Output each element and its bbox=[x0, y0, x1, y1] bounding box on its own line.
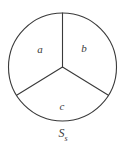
figure-container: a b c Ss bbox=[0, 0, 124, 147]
caption-subscript: s bbox=[64, 135, 67, 144]
sector-label-a: a bbox=[37, 44, 43, 55]
figure-caption: Ss bbox=[58, 127, 67, 142]
sector-label-c: c bbox=[60, 101, 65, 112]
circle-diagram bbox=[0, 0, 124, 147]
sector-label-b: b bbox=[81, 43, 87, 54]
